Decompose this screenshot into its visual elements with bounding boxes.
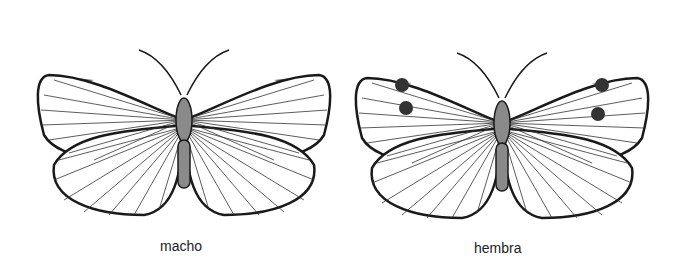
spot	[399, 101, 413, 115]
butterfly-male	[38, 50, 330, 215]
spot	[595, 78, 609, 92]
label-female: hembra	[474, 240, 521, 256]
spot	[395, 78, 409, 92]
spot	[591, 107, 605, 121]
label-male: macho	[160, 238, 202, 254]
butterfly-female	[356, 53, 648, 218]
butterflies-illustration	[0, 0, 680, 277]
